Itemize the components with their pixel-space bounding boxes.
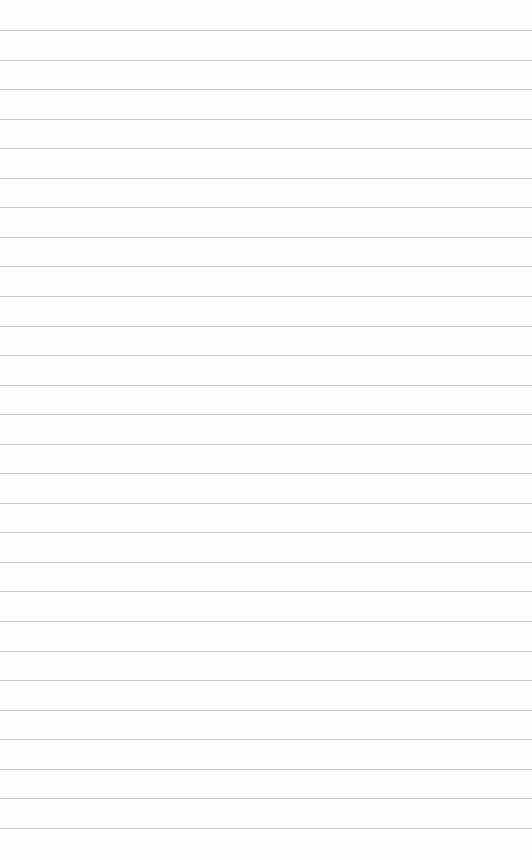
ruled-line [0,532,532,533]
ruled-line [0,148,532,149]
ruled-line [0,414,532,415]
ruled-line [0,473,532,474]
ruled-line [0,266,532,267]
ruled-line [0,119,532,120]
ruled-line [0,739,532,740]
ruled-line [0,503,532,504]
ruled-line [0,444,532,445]
ruled-line [0,355,532,356]
ruled-line [0,326,532,327]
ruled-line [0,385,532,386]
ruled-line [0,178,532,179]
ruled-line [0,710,532,711]
ruled-line [0,621,532,622]
ruled-line [0,89,532,90]
ruled-line [0,562,532,563]
lined-paper [0,0,532,859]
ruled-line [0,207,532,208]
ruled-line [0,60,532,61]
ruled-line [0,828,532,829]
ruled-line [0,591,532,592]
ruled-line [0,30,532,31]
ruled-line [0,769,532,770]
ruled-line [0,798,532,799]
ruled-line [0,296,532,297]
ruled-line [0,651,532,652]
ruled-line [0,680,532,681]
ruled-line [0,237,532,238]
